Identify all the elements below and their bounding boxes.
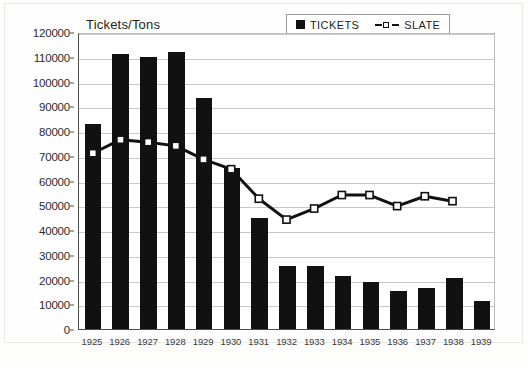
x-axis-tick-label: 1933: [304, 336, 325, 347]
chart-legend: TICKETS SLATE: [286, 14, 450, 35]
dashed-line-square-icon: [375, 20, 399, 29]
bar: [224, 168, 241, 329]
x-axis-tick-label: 1927: [137, 336, 158, 347]
x-axis-tick-label: 1937: [415, 336, 436, 347]
y-axis-tick: [70, 280, 74, 281]
bar: [140, 57, 157, 329]
x-axis-tick-label: 1932: [276, 336, 297, 347]
y-axis-tick-label: 70000: [39, 151, 70, 163]
y-axis-tick-label: 20000: [39, 275, 70, 287]
y-axis-tick-label: 50000: [39, 200, 70, 212]
legend-label-tickets: TICKETS: [310, 19, 359, 31]
y-axis-tick-label: 100000: [33, 77, 70, 89]
x-axis-labels: 1925192619271928192919301931193219331934…: [78, 336, 495, 354]
y-axis-tick-label: 110000: [34, 52, 70, 64]
bar: [335, 276, 352, 329]
bar: [112, 54, 129, 329]
bar: [168, 52, 185, 329]
y-axis-tick: [70, 255, 74, 256]
gridline: [79, 34, 494, 35]
bar: [363, 282, 380, 329]
bar: [446, 278, 463, 329]
x-axis-tick-label: 1925: [82, 336, 103, 347]
x-axis-tick-label: 1936: [387, 336, 408, 347]
y-axis-tick-label: 30000: [39, 250, 70, 262]
slate-data-marker: [394, 203, 401, 210]
filled-square-icon: [296, 20, 305, 29]
x-axis-tick-label: 1935: [360, 336, 381, 347]
bar: [307, 266, 324, 329]
slate-data-marker: [338, 191, 345, 198]
y-axis-tick: [70, 330, 74, 331]
bar: [418, 288, 435, 329]
slate-data-marker: [421, 193, 428, 200]
x-axis-tick-label: 1926: [109, 336, 130, 347]
bar: [251, 218, 268, 329]
chart-container: Tickets/Tons TICKETS SLATE 0100002000030…: [0, 0, 529, 367]
x-axis-tick-label: 1929: [193, 336, 214, 347]
bar: [196, 98, 213, 329]
y-axis-tick: [70, 231, 74, 232]
x-axis-tick-label: 1931: [248, 336, 269, 347]
plot-area: [78, 33, 495, 330]
y-axis-tick-label: 40000: [39, 225, 70, 237]
x-axis-tick-label: 1928: [165, 336, 186, 347]
y-axis-tick-label: 60000: [39, 176, 70, 188]
y-axis-tick: [70, 132, 74, 133]
bar: [85, 124, 102, 329]
slate-data-marker: [449, 198, 456, 205]
x-axis-tick-label: 1930: [221, 336, 242, 347]
slate-data-marker: [366, 191, 373, 198]
y-axis-tick: [70, 206, 74, 207]
slate-data-marker: [311, 205, 318, 212]
y-axis-tick-label: 80000: [39, 126, 70, 138]
legend-item-tickets: TICKETS: [296, 19, 359, 31]
y-axis-tick: [70, 181, 74, 182]
y-axis-tick-label: 120000: [33, 27, 70, 39]
legend-label-slate: SLATE: [404, 19, 440, 31]
y-axis-tick: [70, 156, 74, 157]
x-axis-tick-label: 1938: [443, 336, 464, 347]
y-axis-tick: [70, 82, 74, 83]
x-axis-tick-label: 1934: [332, 336, 353, 347]
bar: [474, 301, 491, 329]
y-axis-tick: [70, 305, 74, 306]
legend-item-slate: SLATE: [375, 19, 440, 31]
y-axis-tick-label: 10000: [39, 299, 70, 311]
y-axis-labels: 0100002000030000400005000060000700008000…: [8, 33, 74, 330]
x-axis-tick-label: 1939: [471, 336, 492, 347]
y-axis-tick: [70, 33, 74, 34]
y-axis-tick: [70, 107, 74, 108]
y-axis-tick: [70, 57, 74, 58]
y-axis-tick-label: 90000: [39, 101, 70, 113]
bar: [279, 266, 296, 329]
slate-data-marker: [255, 195, 262, 202]
slate-data-marker: [283, 216, 290, 223]
bar: [390, 291, 407, 329]
chart-title: Tickets/Tons: [86, 17, 160, 32]
